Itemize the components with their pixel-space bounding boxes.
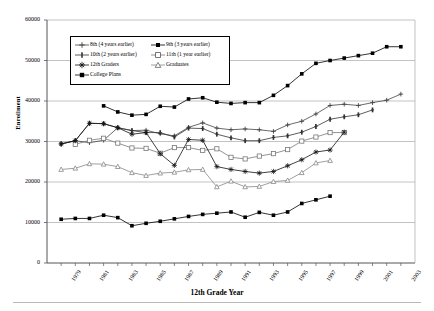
y-axis-tick-label: 40000 xyxy=(6,97,40,103)
x-axis-title: 12th Grade Year xyxy=(0,288,434,297)
legend-label-9th: 9th (3 years earlier) xyxy=(166,41,210,47)
chart-figure: Enrollment 12th Grade Year 8th (4 years … xyxy=(0,0,434,311)
legend-item-11th: 11th (1 year earlier) xyxy=(150,50,226,59)
footer-divider xyxy=(13,302,421,303)
legend-item-10th: 10th (2 years earlier) xyxy=(74,50,150,59)
y-axis-tick-label: 10000 xyxy=(6,219,40,225)
legend-label-8th: 8th (4 years earlier) xyxy=(90,41,134,47)
y-axis-tick-label: 60000 xyxy=(6,16,40,22)
legend-label-12th: 12th Graders xyxy=(90,61,119,67)
legend-item-9th: 9th (3 years earlier) xyxy=(150,40,226,49)
y-axis-tick-label: 50000 xyxy=(6,57,40,63)
chart-legend: 8th (4 years earlier) 9th (3 years earli… xyxy=(70,36,230,85)
legend-label-college-plans: College Plans xyxy=(90,71,121,77)
legend-label-graduates: Graduates xyxy=(166,61,189,67)
legend-marker-graduates xyxy=(150,60,166,69)
legend-marker-9th xyxy=(150,40,166,49)
legend-item-graduates: Graduates xyxy=(150,60,226,69)
series-3 xyxy=(73,130,346,161)
legend-label-11th: 11th (1 year earlier) xyxy=(166,51,210,57)
legend-marker-12th xyxy=(74,60,90,69)
legend-marker-11th xyxy=(150,50,166,59)
legend-label-10th: 10th (2 years earlier) xyxy=(90,51,137,57)
legend-item-college-plans: College Plans xyxy=(74,70,152,79)
y-axis-tick-label: 20000 xyxy=(6,178,40,184)
y-axis-tick-label: 30000 xyxy=(6,138,40,144)
series-5 xyxy=(59,158,333,189)
legend-marker-8th xyxy=(74,40,90,49)
y-axis-tick-label: 0 xyxy=(6,259,40,265)
legend-item-12th: 12th Graders xyxy=(74,60,150,69)
legend-item-8th: 8th (4 years earlier) xyxy=(74,40,150,49)
legend-marker-10th xyxy=(74,50,90,59)
legend-marker-college-plans xyxy=(74,70,90,79)
